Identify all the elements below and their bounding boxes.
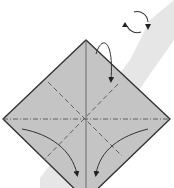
origami-diagram: origami-fold-instructions xyxy=(0,0,174,188)
